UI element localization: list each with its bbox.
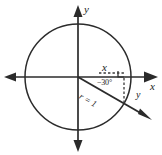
angle-measure-label: −30° <box>97 79 112 87</box>
unit-circle-figure: y x x y −30° r = 1 <box>0 0 162 155</box>
right-angle-marker <box>118 71 124 77</box>
x-axis-left-arrowhead <box>4 73 16 82</box>
figure-canvas <box>0 0 162 155</box>
y-axis-top-arrowhead <box>74 5 83 17</box>
x-component-label: x <box>102 62 107 73</box>
y-component-label: y <box>136 90 140 100</box>
x-axis-label: x <box>150 81 155 92</box>
terminal-ray-arrowhead <box>138 109 152 121</box>
y-axis-label: y <box>84 4 89 15</box>
y-axis-bottom-arrowhead <box>74 140 83 152</box>
